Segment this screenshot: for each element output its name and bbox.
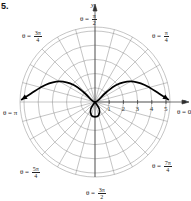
grid-radial-line [95,102,133,167]
grid-radial-line [95,65,160,103]
label-prefix: θ = [152,162,161,170]
radial-tick-label: 2 [121,105,125,113]
angle-label-5pi-over-4: θ = 5π4 [20,166,40,179]
x-axis-label: x [183,98,186,105]
grid-radial-line [58,102,96,167]
grid-radial-line [30,65,95,103]
angle-label-zero: θ = 0 [177,109,191,116]
denominator: 4 [34,173,37,179]
fraction: 5π4 [32,166,40,179]
denominator: 4 [166,167,169,173]
y-axis-label: y [91,2,94,9]
angle-label-7pi-over-4: θ = 7π4 [152,160,172,173]
grid-radial-line [76,102,95,174]
denominator: 4 [36,37,39,43]
grid-radial-line [95,37,133,102]
label-prefix: θ = [20,168,29,176]
grid-radial-line [58,37,96,102]
numerator: π [164,30,169,37]
fraction: 7π4 [164,160,172,173]
denominator: 2 [93,20,96,26]
angle-label-pi-over-4: θ = π4 [152,30,169,43]
label-prefix: θ = [86,189,95,197]
grid-radial-line [95,102,167,121]
fraction: 3π4 [34,30,42,43]
denominator: 2 [100,194,103,200]
angle-label-3pi-over-2: θ = 3π2 [86,187,106,200]
grid-radial-line [23,102,95,121]
fraction: π2 [92,13,97,26]
label-prefix: θ = [80,15,89,23]
numerator: 5π [32,166,40,173]
grid-radial-line [42,102,95,155]
fraction: π4 [164,30,169,43]
radial-tick-label: 3 [136,105,140,113]
numerator: 3π [98,187,106,194]
angle-label-pi: θ = π [3,110,17,117]
radial-tick-label: 5 [164,105,168,113]
label-prefix: θ = [22,32,31,40]
radial-tick-label: 4 [150,105,154,113]
denominator: 4 [165,37,168,43]
numerator: 3π [34,30,42,37]
grid-radial-line [95,30,114,102]
grid-radial-line [42,49,95,102]
grid-radial-line [76,30,95,102]
grid-radial-line [30,102,95,140]
grid-radial-line [95,49,148,102]
fraction: 3π2 [98,187,106,200]
radial-tick-label: 1 [107,105,111,113]
numerator: 7π [164,160,172,167]
numerator: π [92,13,97,20]
angle-label-3pi-over-4: θ = 3π4 [22,30,42,43]
label-prefix: θ = [152,32,161,40]
angle-label-pi-over-2: θ = π2 [80,13,97,26]
grid-radial-line [95,102,114,174]
